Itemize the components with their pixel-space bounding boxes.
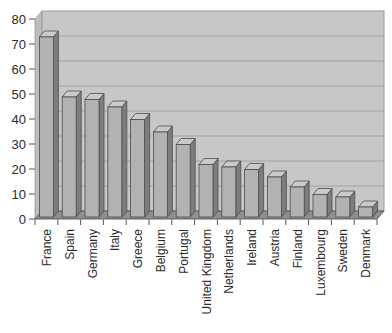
bar-italy bbox=[108, 101, 127, 217]
bar-spain bbox=[62, 91, 81, 217]
bar-front-face bbox=[85, 100, 99, 218]
y-tick-label-0: 0 bbox=[19, 212, 26, 227]
y-tick-label-80: 80 bbox=[12, 12, 26, 27]
bar-austria bbox=[267, 171, 286, 217]
y-tick-label-40: 40 bbox=[12, 112, 26, 127]
bar-side-face bbox=[145, 114, 150, 218]
bar-front-face bbox=[245, 170, 259, 218]
bar-ireland bbox=[245, 164, 264, 218]
bar-front-face bbox=[199, 165, 213, 218]
bar-side-face bbox=[53, 31, 58, 217]
bar-side-face bbox=[76, 91, 81, 217]
bar-side-face bbox=[281, 171, 286, 217]
bar-front-face bbox=[153, 132, 167, 217]
bar-front-face bbox=[108, 107, 122, 217]
bar-germany bbox=[85, 94, 104, 218]
y-tick-label-70: 70 bbox=[12, 37, 26, 52]
bar-united-kingdom bbox=[199, 159, 218, 218]
x-axis-label-ireland: Ireland bbox=[245, 229, 259, 266]
bar-front-face bbox=[131, 120, 145, 218]
y-tick-label-60: 60 bbox=[12, 62, 26, 77]
bar-luxembourg bbox=[313, 189, 332, 218]
bar-finland bbox=[290, 181, 309, 217]
x-axis-label-belgium: Belgium bbox=[154, 229, 168, 272]
bar-denmark bbox=[359, 201, 378, 217]
bar-chart-3d: 01020304050607080FranceSpainGermanyItaly… bbox=[0, 0, 392, 333]
bar-sweden bbox=[336, 191, 355, 217]
bar-netherlands bbox=[222, 161, 241, 217]
y-tick-label-10: 10 bbox=[12, 187, 26, 202]
y-tick-label-30: 30 bbox=[12, 137, 26, 152]
x-axis-label-netherlands: Netherlands bbox=[222, 229, 236, 294]
x-axis-label-italy: Italy bbox=[108, 229, 122, 251]
bar-greece bbox=[131, 114, 150, 218]
bar-front-face bbox=[222, 167, 236, 217]
x-axis-label-united-kingdom: United Kingdom bbox=[200, 229, 214, 314]
x-axis-label-portugal: Portugal bbox=[177, 229, 191, 274]
x-axis-label-sweden: Sweden bbox=[336, 229, 350, 272]
bar-side-face bbox=[122, 101, 127, 217]
bar-front-face bbox=[176, 145, 190, 218]
x-axis-label-finland: Finland bbox=[291, 229, 305, 268]
bar-front-face bbox=[39, 37, 53, 217]
bar-france bbox=[39, 31, 58, 217]
bar-side-face bbox=[190, 139, 195, 218]
bar-front-face bbox=[313, 195, 327, 218]
bar-side-face bbox=[99, 94, 104, 218]
bar-side-face bbox=[167, 126, 172, 217]
bar-side-face bbox=[213, 159, 218, 218]
bar-front-face bbox=[359, 207, 373, 217]
bar-front-face bbox=[267, 177, 281, 217]
x-axis-label-spain: Spain bbox=[63, 229, 77, 260]
y-tick-label-50: 50 bbox=[12, 87, 26, 102]
bar-front-face bbox=[62, 97, 76, 217]
x-axis-label-luxembourg: Luxembourg bbox=[314, 229, 328, 296]
x-axis-label-denmark: Denmark bbox=[359, 228, 373, 278]
x-axis-label-austria: Austria bbox=[268, 229, 282, 267]
bar-belgium bbox=[153, 126, 172, 217]
x-axis-label-france: France bbox=[40, 229, 54, 267]
bar-front-face bbox=[290, 187, 304, 217]
bar-side-face bbox=[259, 164, 264, 218]
x-axis-label-germany: Germany bbox=[86, 229, 100, 278]
y-tick-label-20: 20 bbox=[12, 162, 26, 177]
chart-canvas: 01020304050607080FranceSpainGermanyItaly… bbox=[0, 0, 392, 333]
bar-front-face bbox=[336, 197, 350, 217]
x-axis-label-greece: Greece bbox=[131, 229, 145, 269]
bar-side-face bbox=[236, 161, 241, 217]
bar-portugal bbox=[176, 139, 195, 218]
